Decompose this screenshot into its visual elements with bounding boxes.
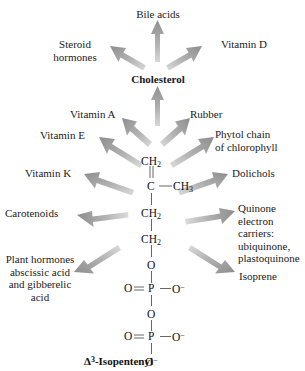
label-isoprene: Isoprene xyxy=(239,270,299,283)
atom-o-double-1: O xyxy=(124,282,132,294)
label-vitamin-e: Vitamin E xyxy=(40,129,98,142)
arrow-to-rubber xyxy=(160,118,190,147)
atom-ch3: CH3 xyxy=(173,180,193,196)
atom-ch2-3: CH2 xyxy=(141,233,161,249)
label-phytol-chain: Phytol chain of chlorophyll xyxy=(215,128,305,153)
label-rubber: Rubber xyxy=(190,108,250,121)
arrow-ipp-to-cholesterol xyxy=(151,86,164,126)
arrow-to-vitamin-d xyxy=(166,46,202,71)
label-vitamin-d: Vitamin D xyxy=(204,38,284,51)
caption-delta: Δ xyxy=(84,355,91,367)
atom-o-minus-2: O− xyxy=(172,330,185,343)
arrow-to-steroid-hormones xyxy=(110,46,146,71)
label-vitamin-k: Vitamin K xyxy=(25,167,83,180)
atom-p-1: P xyxy=(148,282,154,294)
arrow-to-bile-acids xyxy=(151,20,164,62)
arrow-to-quinone-carriers xyxy=(185,208,235,225)
arrow-to-vitamin-a xyxy=(122,118,152,147)
atom-o-minus-1: O− xyxy=(172,282,185,295)
label-quinone-carriers: Quinone electron carriers: ubiquinone, p… xyxy=(238,202,305,265)
structure-caption: Δ3-Isopentenyl xyxy=(84,355,153,367)
atom-o-double-2: O xyxy=(124,330,132,342)
label-carotenoids: Carotenoids xyxy=(5,207,73,220)
atom-o-bridge: O xyxy=(147,308,155,320)
arrow-to-plant-hormones xyxy=(74,245,121,274)
arrow-to-phytol-chain xyxy=(170,137,214,168)
atom-c: C xyxy=(147,180,155,192)
atom-o-ester: O xyxy=(147,259,155,271)
label-plant-hormones: Plant hormones abscissic acid and gibber… xyxy=(0,253,80,303)
arrow-to-vitamin-e xyxy=(99,137,143,168)
caption-rest: -Isopentenyl xyxy=(95,355,153,367)
arrow-to-carotenoids xyxy=(77,211,129,227)
atom-ch2-2: CH2 xyxy=(141,207,161,223)
label-dolichols: Dolichols xyxy=(232,167,296,180)
label-steroid-hormones: Steroid hormones xyxy=(40,38,110,63)
isoprenoid-pathway-diagram: Bile acids Steroid hormones Vitamin D Ch… xyxy=(0,0,305,371)
atom-ch2-1: CH2 xyxy=(141,155,161,171)
arrow-to-vitamin-k xyxy=(84,172,134,196)
label-vitamin-a: Vitamin A xyxy=(70,108,130,121)
arrow-to-isoprene xyxy=(188,245,235,274)
label-bile-acids: Bile acids xyxy=(108,8,208,21)
label-cholesterol: Cholesterol xyxy=(108,73,208,86)
atom-p-2: P xyxy=(148,330,154,342)
